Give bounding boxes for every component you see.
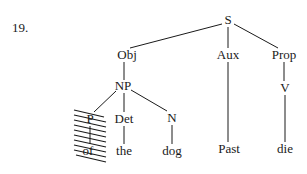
example-number: 19. <box>12 21 28 35</box>
node-n: N <box>167 111 176 125</box>
node-aux: Aux <box>217 48 239 62</box>
tree-edges <box>0 0 307 174</box>
leaf-die: die <box>277 142 293 156</box>
node-s: S <box>224 13 231 27</box>
edge-np-p <box>94 91 116 112</box>
leaf-the: the <box>116 144 132 158</box>
edge-np-n <box>131 90 167 111</box>
leaf-past: Past <box>218 142 240 156</box>
node-det: Det <box>115 112 134 126</box>
node-v: V <box>280 81 289 95</box>
edge-s-prop <box>234 24 278 48</box>
node-np: NP <box>115 79 132 93</box>
edge-s-obj <box>130 24 222 48</box>
node-prop: Prop <box>272 48 297 62</box>
leaf-dog: dog <box>162 144 182 158</box>
node-obj: Obj <box>117 48 137 62</box>
node-p: P <box>86 112 93 126</box>
leaf-of: of <box>83 144 94 158</box>
